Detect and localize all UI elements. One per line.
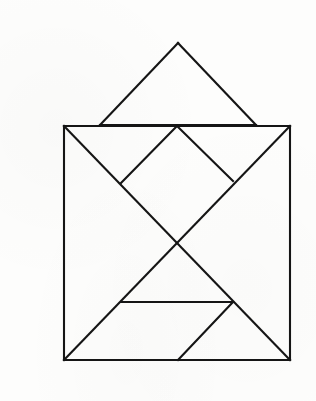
tangram-line-group: [64, 43, 290, 360]
hat-right-edge: [178, 43, 256, 125]
hat-left-edge: [100, 43, 178, 125]
diamond-upper-left: [121, 126, 177, 183]
tangram-drawing: [0, 0, 316, 401]
diamond-upper-right: [177, 126, 233, 181]
tangram-figure-canvas: [0, 0, 316, 401]
lower-right-slant: [178, 302, 233, 360]
